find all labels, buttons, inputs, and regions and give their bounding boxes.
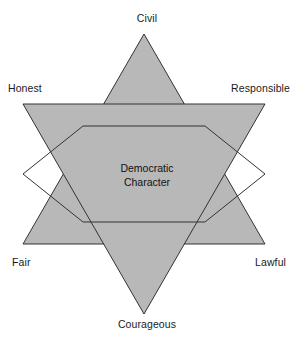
vertex-label-responsible: Responsible [231, 82, 290, 94]
vertex-label-lawful: Lawful [255, 256, 286, 268]
vertex-label-honest: Honest [8, 82, 42, 94]
vertex-label-fair: Fair [12, 256, 30, 268]
center-label-line-1: Democratic [0, 162, 294, 176]
vertex-label-civil: Civil [0, 12, 294, 24]
center-label-line-2: Character [0, 176, 294, 190]
vertex-label-courageous: Courageous [0, 318, 294, 330]
center-label: Democratic Character [0, 162, 294, 189]
democratic-character-diagram: Civil Responsible Lawful Courageous Fair… [0, 0, 294, 338]
